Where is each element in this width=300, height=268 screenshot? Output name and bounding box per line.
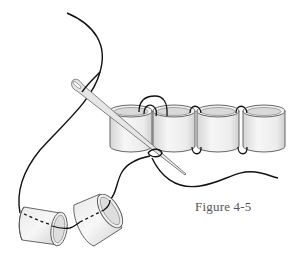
loose-bead-right xyxy=(74,190,128,246)
bead-3 xyxy=(197,105,239,152)
thread-to-loose-beads xyxy=(110,156,150,200)
bead-4 xyxy=(243,105,285,152)
bead-row xyxy=(110,105,285,152)
figure-caption: Figure 4-5 xyxy=(195,199,252,215)
beading-diagram xyxy=(0,0,300,268)
thread-through-eye xyxy=(82,72,100,92)
loose-bead-left xyxy=(19,207,69,247)
thread-upper xyxy=(19,13,103,213)
bead-2 xyxy=(153,105,195,152)
